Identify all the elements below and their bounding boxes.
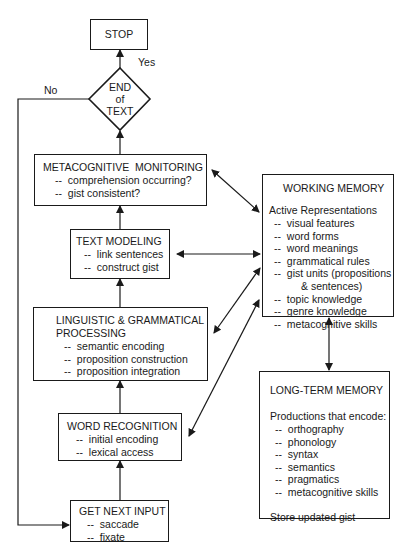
working-memory-subtitle: Active Representations (269, 204, 393, 217)
metacognitive-monitoring-title: METACOGNITIVE MONITORING (43, 161, 206, 174)
word-recognition-box: WORD RECOGNITION initial encoding lexica… (58, 413, 182, 461)
working-memory-item: word forms (274, 230, 393, 243)
long-term-memory-item: syntax (275, 448, 389, 461)
get-next-input-item: saccade (87, 518, 168, 531)
word-recognition-title: WORD RECOGNITION (67, 420, 181, 433)
long-term-memory-item: phonology (275, 436, 389, 449)
linguistic-title-line2: PROCESSING (56, 327, 207, 340)
working-memory-item: gist units (propositions (274, 267, 393, 280)
linguistic-processing-box: LINGUISTIC & GRAMMATICAL PROCESSING sema… (33, 307, 208, 381)
working-memory-title: WORKING MEMORY (269, 182, 393, 195)
working-memory-item: visual features (274, 217, 393, 230)
arrow-wm-meta (212, 170, 259, 212)
long-term-memory-item: semantics (275, 461, 389, 474)
working-memory-item: word meanings (274, 242, 393, 255)
get-next-input-title: GET NEXT INPUT (79, 505, 168, 518)
stop-box: STOP (90, 19, 148, 50)
get-next-input-item: fixate (87, 531, 168, 544)
text-modeling-item: link sentences (84, 248, 169, 261)
text-modeling-box: TEXT MODELING link sentences construct g… (70, 229, 170, 279)
yes-label: Yes (138, 56, 155, 68)
long-term-memory-footer: Store updated gist (270, 511, 389, 524)
working-memory-item: metacognitive skills (274, 318, 393, 331)
working-memory-continuation: & sentences) (274, 280, 393, 293)
long-term-memory-item: orthography (275, 423, 389, 436)
long-term-memory-item: metacognitive skills (275, 486, 389, 499)
linguistic-item: semantic encoding (64, 340, 207, 353)
long-term-memory-title: LONG-TERM MEMORY (270, 384, 389, 397)
metacognitive-monitoring-box: METACOGNITIVE MONITORING comprehension o… (34, 154, 207, 206)
decision-label: END of TEXT (100, 81, 140, 117)
linguistic-item: proposition construction (64, 353, 207, 366)
meta-item: gist consistent? (55, 187, 206, 200)
linguistic-item: proposition integration (64, 365, 207, 378)
text-modeling-item: construct gist (84, 261, 169, 274)
working-memory-item: topic knowledge (274, 293, 393, 306)
arrow-wm-ling (214, 268, 260, 333)
text-modeling-title: TEXT MODELING (76, 235, 169, 248)
get-next-input-box: GET NEXT INPUT saccade fixate (70, 500, 169, 542)
working-memory-item: genre knowledge (274, 305, 393, 318)
working-memory-item: grammatical rules (274, 255, 393, 268)
long-term-memory-subtitle: Productions that encode: (270, 410, 389, 423)
no-label: No (44, 84, 57, 96)
meta-item: comprehension occurring? (55, 174, 206, 187)
word-recognition-item: initial encoding (76, 433, 181, 446)
long-term-memory-item: pragmatics (275, 473, 389, 486)
stop-label: STOP (91, 20, 147, 48)
long-term-memory-box: LONG-TERM MEMORY Productions that encode… (259, 371, 390, 519)
working-memory-box: WORKING MEMORY Active Representations vi… (262, 174, 394, 317)
linguistic-title-line1: LINGUISTIC & GRAMMATICAL (56, 314, 207, 327)
word-recognition-item: lexical access (76, 446, 181, 459)
